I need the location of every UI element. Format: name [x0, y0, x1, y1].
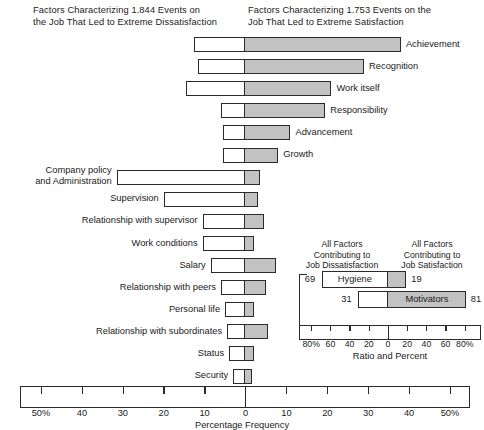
bar-segment-dissatisfaction	[229, 346, 245, 361]
bar-segment-satisfaction	[244, 37, 401, 52]
inset-axis-tick	[369, 326, 370, 331]
hygiene-motivators-inset: All Factors Contributing to Job Dissatis…	[296, 239, 484, 359]
bar-segment-satisfaction	[244, 369, 252, 384]
inset-axis-tick-label: 80%	[302, 339, 319, 349]
header-satisfaction: Factors Characterizing 1.753 Events on t…	[248, 4, 431, 28]
axis-tick	[327, 387, 328, 394]
bar-segment-dissatisfaction	[117, 170, 246, 185]
bar-segment-satisfaction	[244, 280, 266, 295]
inset-value-right: 81	[471, 291, 481, 308]
bar-row-label: Relationship with supervisor	[82, 215, 198, 227]
bar-segment-satisfaction	[244, 125, 290, 140]
inset-axis-tick	[349, 326, 350, 331]
bar-segment-satisfaction	[244, 214, 264, 229]
bar-segment-dissatisfaction	[198, 59, 245, 74]
bar-row-label: Work conditions	[132, 238, 198, 250]
bar-segment-dissatisfaction	[211, 258, 246, 273]
bar-row-label: Security	[195, 370, 229, 382]
inset-ratio-axis	[299, 325, 481, 340]
inset-axis-title: Ratio and Percent	[296, 351, 484, 361]
bar-segment-dissatisfaction	[221, 103, 246, 118]
inset-axis-tick	[407, 326, 408, 331]
bar-segment-satisfaction	[244, 346, 254, 361]
inset-bar-name: Hygiene	[322, 271, 388, 288]
axis-tick	[368, 387, 369, 394]
inset-axis-tick-label: 20	[402, 339, 412, 349]
inset-axis-tick-label: 0	[386, 339, 391, 349]
header-dissatisfaction: Factors Characterizing 1.844 Events on t…	[33, 4, 217, 28]
bar-segment-satisfaction	[244, 258, 276, 273]
inset-axis-tick	[311, 326, 312, 331]
bar-segment-dissatisfaction	[194, 37, 245, 52]
bar-row-label: Growth	[283, 149, 313, 161]
bar-segment-dissatisfaction	[164, 192, 246, 207]
inset-axis-tick	[388, 326, 389, 340]
inset-axis-tick	[330, 326, 331, 331]
bar-segment-dissatisfaction	[203, 236, 246, 251]
bar-segment-dissatisfaction	[203, 214, 246, 229]
inset-segment-dissatisfaction	[358, 291, 388, 308]
bar-segment-satisfaction	[244, 170, 260, 185]
bar-segment-satisfaction	[244, 81, 331, 96]
inset-header-dissatisfaction: All Factors Contributing to Job Dissatis…	[298, 239, 386, 271]
axis-tick-label: 40	[404, 408, 414, 418]
percentage-frequency-axis	[20, 386, 470, 408]
bar-row-label: Relationship with subordinates	[96, 326, 222, 338]
axis-tick-label: 10	[281, 408, 291, 418]
bar-row-label: Personal life	[169, 304, 220, 316]
inset-bar-name: Motivators	[388, 291, 466, 308]
inset-axis-tick-label: 40	[345, 339, 355, 349]
axis-tick	[409, 387, 410, 394]
inset-axis-tick-label: 60	[326, 339, 336, 349]
inset-value-right: 19	[411, 271, 421, 288]
axis-tick-label: 20	[322, 408, 332, 418]
axis-tick	[82, 387, 83, 394]
bar-segment-dissatisfaction	[223, 125, 245, 140]
bar-segment-satisfaction	[244, 103, 325, 118]
axis-tick	[245, 387, 246, 408]
axis-tick	[41, 387, 42, 394]
inset-segment-satisfaction	[387, 271, 407, 288]
bar-row-label: Supervision	[110, 193, 159, 205]
inset-axis-tick	[445, 326, 446, 331]
axis-tick-label: 0	[243, 408, 248, 418]
bar-segment-satisfaction	[244, 236, 254, 251]
bar-row-label: Advancement	[295, 127, 352, 139]
bar-segment-satisfaction	[244, 324, 268, 339]
bar-row-label: Company policy and Administration	[35, 165, 112, 188]
inset-axis-tick-label: 20	[364, 339, 374, 349]
bar-row-label: Status	[198, 348, 224, 360]
bar-segment-dissatisfaction	[186, 81, 245, 96]
inset-axis-tick-label: 80%	[456, 339, 473, 349]
axis-tick	[163, 387, 164, 394]
axis-tick-label: 30	[118, 408, 128, 418]
bar-row-label: Recognition	[369, 61, 418, 73]
inset-axis-tick	[426, 326, 427, 331]
bar-row-label: Responsibility	[330, 105, 387, 117]
bar-segment-satisfaction	[244, 192, 258, 207]
bar-row-label: Achievement	[406, 39, 460, 51]
bar-segment-satisfaction	[244, 148, 278, 163]
axis-tick-label: 50%	[32, 408, 51, 418]
bar-segment-dissatisfaction	[227, 324, 245, 339]
inset-axis-tick-label: 40	[422, 339, 432, 349]
bar-segment-dissatisfaction	[223, 148, 245, 163]
axis-tick-label: 10	[199, 408, 209, 418]
bar-segment-satisfaction	[244, 302, 254, 317]
inset-value-left: 31	[341, 291, 351, 308]
bar-row-label: Salary	[179, 260, 205, 272]
bar-segment-satisfaction	[244, 59, 364, 74]
inset-header-satisfaction: All Factors Contributing to Job Satisfac…	[388, 239, 476, 271]
bar-segment-dissatisfaction	[221, 280, 246, 295]
axis-tick-label: 40	[77, 408, 87, 418]
bar-row-label: Relationship with peers	[120, 282, 216, 294]
axis-tick-label: 20	[159, 408, 169, 418]
axis-tick-label: 50%	[441, 408, 460, 418]
inset-axis-tick	[465, 326, 466, 331]
axis-title: Percentage Frequency	[0, 420, 484, 430]
bar-segment-dissatisfaction	[225, 302, 245, 317]
axis-tick	[204, 387, 205, 394]
bar-row-label: Work itself	[336, 83, 379, 95]
inset-axis-tick-label: 60	[441, 339, 451, 349]
